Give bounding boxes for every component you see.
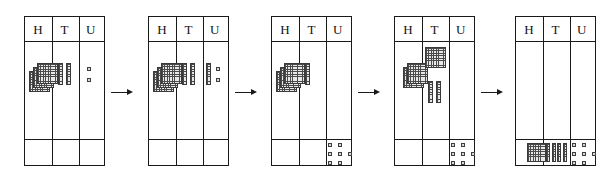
ten-rod-block bbox=[428, 81, 433, 103]
ten-rod-block bbox=[563, 143, 567, 162]
work-row-cell-tens bbox=[51, 41, 77, 139]
right-arrow-icon bbox=[235, 86, 257, 98]
work-row-cell-hundreds bbox=[149, 41, 175, 139]
answer-row-cell-units bbox=[325, 139, 351, 167]
work-row-cell-units bbox=[569, 41, 595, 139]
column-header-tens: T bbox=[175, 17, 201, 41]
column-header-row: HTU bbox=[272, 17, 351, 41]
ten-rod-block bbox=[546, 143, 550, 162]
column-header-tens: T bbox=[542, 17, 568, 41]
column-header-hundreds: H bbox=[516, 17, 542, 41]
hundred-flat-block bbox=[425, 47, 446, 68]
answer-row-cell-hundreds bbox=[395, 139, 421, 167]
answer-row-cell-hundreds bbox=[149, 139, 175, 167]
one-unit-block bbox=[338, 161, 342, 165]
answer-row bbox=[395, 139, 474, 167]
work-row bbox=[149, 41, 228, 139]
one-unit-block bbox=[582, 143, 586, 147]
ten-rod-block bbox=[305, 63, 310, 85]
arrow-shaft bbox=[235, 92, 252, 93]
column-header-tens: T bbox=[298, 17, 324, 41]
work-row-cell-tens bbox=[542, 41, 568, 139]
column-header-units: U bbox=[202, 17, 228, 41]
answer-row-cell-units bbox=[569, 139, 595, 167]
arrow-shaft bbox=[111, 92, 128, 93]
work-row-cell-units bbox=[325, 41, 351, 139]
arrow-head bbox=[127, 89, 133, 95]
right-arrow-icon bbox=[481, 86, 503, 98]
arrow-shaft bbox=[358, 92, 375, 93]
answer-row bbox=[516, 139, 595, 167]
one-unit-block bbox=[87, 67, 91, 71]
column-header-units: U bbox=[325, 17, 351, 41]
one-unit-block bbox=[572, 152, 576, 156]
right-arrow-icon bbox=[111, 86, 133, 98]
ten-rod-block bbox=[182, 63, 187, 85]
column-header-row: HTU bbox=[516, 17, 595, 41]
place-value-chart-panel: HTU bbox=[148, 16, 229, 166]
arrow-shaft bbox=[481, 92, 498, 93]
one-unit-block bbox=[451, 143, 455, 147]
answer-row-cell-tens bbox=[542, 139, 568, 167]
place-value-regrouping-diagram: HTUHTUHTUHTUHTU bbox=[0, 0, 612, 180]
place-value-chart-panel: HTU bbox=[271, 16, 352, 166]
answer-row-cell-hundreds bbox=[25, 139, 51, 167]
work-row-cell-hundreds bbox=[516, 41, 542, 139]
answer-row-cell-hundreds bbox=[516, 139, 542, 167]
arrow-head bbox=[497, 89, 503, 95]
ten-rod-block bbox=[66, 63, 71, 85]
column-header-row: HTU bbox=[25, 17, 104, 41]
answer-row-cell-tens bbox=[421, 139, 447, 167]
place-value-chart-panel: HTU bbox=[24, 16, 105, 166]
column-header-row: HTU bbox=[149, 17, 228, 41]
one-unit-block bbox=[338, 143, 342, 147]
one-unit-block bbox=[572, 143, 576, 147]
column-header-row: HTU bbox=[395, 17, 474, 41]
column-header-units: U bbox=[569, 17, 595, 41]
work-row-cell-hundreds bbox=[395, 41, 421, 139]
answer-row bbox=[149, 139, 228, 167]
work-row-cell-tens bbox=[298, 41, 324, 139]
one-unit-block bbox=[451, 152, 455, 156]
one-unit-block bbox=[348, 152, 352, 156]
one-unit-block bbox=[471, 152, 475, 156]
one-unit-block bbox=[461, 161, 465, 165]
arrow-head bbox=[251, 89, 257, 95]
column-header-hundreds: H bbox=[25, 17, 51, 41]
column-header-units: U bbox=[448, 17, 474, 41]
one-unit-block bbox=[328, 143, 332, 147]
column-header-hundreds: H bbox=[395, 17, 421, 41]
work-row bbox=[272, 41, 351, 139]
one-unit-block bbox=[338, 152, 342, 156]
work-row-cell-tens bbox=[421, 41, 447, 139]
one-unit-block bbox=[328, 152, 332, 156]
one-unit-block bbox=[582, 161, 586, 165]
ten-rod-block bbox=[206, 63, 211, 85]
work-row-cell-units bbox=[202, 41, 228, 139]
answer-row-cell-tens bbox=[51, 139, 77, 167]
column-header-tens: T bbox=[51, 17, 77, 41]
arrow-head bbox=[374, 89, 380, 95]
column-header-hundreds: H bbox=[272, 17, 298, 41]
answer-row bbox=[272, 139, 351, 167]
answer-row-cell-tens bbox=[175, 139, 201, 167]
ten-rod-block bbox=[58, 63, 63, 85]
answer-row-cell-tens bbox=[298, 139, 324, 167]
ten-rod-block bbox=[436, 81, 441, 103]
one-unit-block bbox=[328, 161, 332, 165]
work-row-cell-hundreds bbox=[25, 41, 51, 139]
column-header-hundreds: H bbox=[149, 17, 175, 41]
one-unit-block bbox=[451, 161, 455, 165]
answer-row-cell-units bbox=[202, 139, 228, 167]
one-unit-block bbox=[87, 78, 91, 82]
ten-rod-block bbox=[190, 63, 195, 85]
one-unit-block bbox=[582, 152, 586, 156]
answer-row-cell-units bbox=[78, 139, 104, 167]
one-unit-block bbox=[216, 78, 220, 82]
work-row bbox=[516, 41, 595, 139]
ten-rod-block bbox=[552, 143, 556, 162]
one-unit-block bbox=[216, 67, 220, 71]
right-arrow-icon bbox=[358, 86, 380, 98]
answer-row bbox=[25, 139, 104, 167]
one-unit-block bbox=[572, 161, 576, 165]
